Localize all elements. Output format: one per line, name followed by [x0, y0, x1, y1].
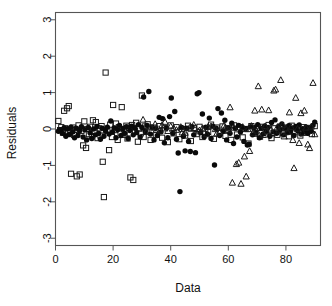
marker-circle	[222, 118, 227, 123]
marker-circle	[86, 125, 91, 130]
series-group-2-circles	[56, 89, 318, 195]
marker-circle	[105, 124, 110, 129]
marker-square	[68, 171, 73, 176]
marker-triangle	[247, 148, 253, 154]
marker-circle	[122, 131, 127, 136]
marker-circle	[193, 150, 198, 155]
marker-circle	[234, 134, 239, 139]
marker-square	[100, 159, 105, 164]
marker-circle	[200, 111, 205, 116]
y-tick-label: -2	[41, 197, 53, 207]
marker-circle	[151, 137, 156, 142]
marker-triangle	[291, 165, 297, 171]
marker-circle	[137, 134, 142, 139]
marker-circle	[186, 139, 191, 144]
x-tick-label: 20	[107, 253, 119, 265]
marker-circle	[231, 141, 236, 146]
marker-triangle	[140, 116, 146, 122]
marker-square	[119, 105, 124, 110]
marker-circle	[215, 106, 220, 111]
marker-circle	[141, 94, 146, 99]
marker-circle	[96, 131, 101, 136]
marker-triangle	[266, 107, 272, 113]
y-tick-label: -1	[41, 161, 53, 171]
y-axis-title: Residuals	[5, 107, 19, 160]
marker-triangle	[278, 77, 284, 83]
marker-circle	[224, 137, 229, 142]
x-tick-label: 0	[52, 253, 58, 265]
marker-triangle	[310, 80, 316, 86]
marker-circle	[113, 135, 118, 140]
y-tick-label: 0	[41, 126, 53, 132]
y-tick-label: -3	[41, 233, 53, 243]
x-tick-label: 80	[280, 253, 292, 265]
marker-square	[106, 148, 111, 153]
marker-square	[111, 102, 116, 107]
marker-circle	[188, 149, 193, 154]
data-points-group	[56, 70, 318, 200]
marker-triangle	[252, 107, 258, 113]
marker-circle	[246, 142, 251, 147]
marker-circle	[238, 129, 243, 134]
marker-triangle	[259, 106, 265, 112]
marker-circle	[108, 118, 113, 123]
x-tick-label: 60	[222, 253, 234, 265]
marker-circle	[75, 133, 80, 138]
y-tick-label: 1	[41, 90, 53, 96]
marker-square	[159, 135, 164, 140]
marker-triangle	[229, 179, 235, 185]
y-tick-label: 2	[41, 53, 53, 59]
marker-circle	[312, 119, 317, 124]
marker-circle	[174, 136, 179, 141]
marker-triangle	[241, 153, 247, 159]
marker-circle	[272, 117, 277, 122]
marker-circle	[125, 136, 130, 141]
marker-triangle	[243, 173, 249, 179]
marker-circle	[162, 140, 167, 145]
marker-triangle	[238, 181, 244, 187]
marker-circle	[182, 148, 187, 153]
marker-triangle	[306, 145, 312, 151]
marker-triangle	[227, 104, 233, 110]
marker-circle	[196, 90, 201, 95]
marker-circle	[207, 115, 212, 120]
marker-circle	[84, 137, 89, 142]
marker-triangle	[286, 109, 292, 115]
x-axis-title: Data	[175, 281, 201, 295]
y-tick-label: 3	[41, 17, 53, 23]
marker-square	[82, 119, 87, 124]
marker-square	[101, 194, 106, 199]
marker-circle	[68, 124, 73, 129]
marker-circle	[167, 114, 172, 119]
marker-circle	[212, 162, 217, 167]
marker-triangle	[255, 83, 261, 89]
marker-circle	[169, 95, 174, 100]
marker-circle	[172, 109, 177, 114]
marker-circle	[94, 124, 99, 129]
marker-circle	[134, 130, 139, 135]
marker-triangle	[301, 107, 307, 113]
marker-triangle	[293, 95, 299, 101]
marker-circle	[227, 131, 232, 136]
marker-circle	[176, 150, 181, 155]
marker-triangle	[296, 140, 302, 146]
marker-square	[135, 139, 140, 144]
marker-circle	[146, 89, 151, 94]
marker-circle	[101, 134, 106, 139]
marker-square	[56, 118, 61, 123]
marker-circle	[219, 110, 224, 115]
residuals-scatter-plot: -3-2-10123020406080 Residuals Data	[0, 0, 332, 306]
marker-square	[103, 70, 108, 75]
marker-circle	[165, 135, 170, 140]
marker-circle	[177, 189, 182, 194]
x-tick-label: 40	[165, 253, 177, 265]
chart-canvas: -3-2-10123020406080 Residuals Data	[0, 0, 332, 306]
